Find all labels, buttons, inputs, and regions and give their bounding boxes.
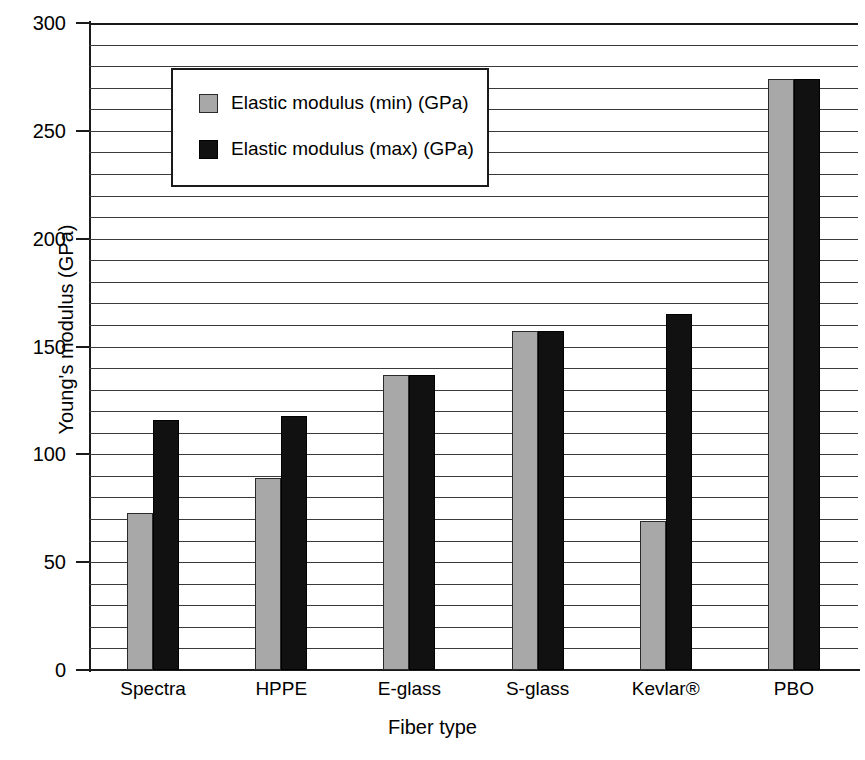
x-axis-tick-label: Spectra (120, 678, 185, 700)
bar-min (255, 478, 281, 670)
x-axis-tick-label: PBO (774, 678, 814, 700)
y-axis-tick-label: 200 (12, 229, 66, 249)
y-axis-tick-mark (76, 130, 89, 132)
x-axis-tick-label: Kevlar® (632, 678, 700, 700)
y-axis-tick-label: 150 (12, 337, 66, 357)
bar-max (281, 416, 307, 670)
x-axis-tick-labels: SpectraHPPEE-glassS-glassKevlar®PBO (89, 678, 858, 708)
bar-min (512, 331, 538, 670)
y-axis-tick-mark (76, 238, 89, 240)
y-axis-tick-mark (76, 22, 89, 24)
y-axis-tick-mark (76, 561, 89, 563)
y-axis-tick-label: 300 (12, 13, 66, 33)
bar-min (768, 79, 794, 670)
bar-max (794, 79, 820, 670)
bar-max (409, 375, 435, 670)
bar-min (127, 513, 153, 670)
legend-entry-max: Elastic modulus (max) (GPa) (199, 138, 474, 160)
y-axis-tick-mark (76, 453, 89, 455)
legend-swatch-max-icon (199, 140, 218, 159)
y-axis-tick-label: 100 (12, 444, 66, 464)
y-axis-tick-mark (76, 669, 89, 671)
x-axis-tick-label: E-glass (378, 678, 441, 700)
y-axis-tick-mark (76, 346, 89, 348)
bar-max (538, 331, 564, 670)
legend-label-max: Elastic modulus (max) (GPa) (231, 138, 474, 160)
y-axis-tick-label: 50 (12, 552, 66, 572)
x-axis-tick-label: S-glass (506, 678, 569, 700)
bar-max (153, 420, 179, 670)
chart-figure: Young's modulus (GPa) 050100150200250300… (0, 0, 865, 760)
legend-label-min: Elastic modulus (min) (GPa) (231, 92, 469, 114)
legend-entry-min: Elastic modulus (min) (GPa) (199, 92, 469, 114)
x-axis-title: Fiber type (0, 716, 865, 739)
legend-swatch-min-icon (199, 94, 218, 113)
bar-min (640, 521, 666, 670)
bar-max (666, 314, 692, 670)
y-axis-tick-label: 250 (12, 121, 66, 141)
y-axis-tick-label: 0 (12, 660, 66, 680)
legend: Elastic modulus (min) (GPa) Elastic modu… (171, 68, 489, 187)
x-axis-tick-label: HPPE (255, 678, 307, 700)
y-axis-tick-labels: 050100150200250300 (12, 0, 66, 760)
bar-min (383, 375, 409, 670)
